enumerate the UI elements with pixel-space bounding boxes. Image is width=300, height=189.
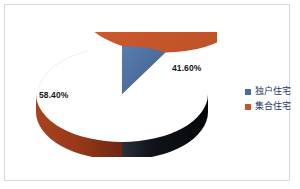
plot-area: 41.60% 58.40% 独户住宅 集合住宅 bbox=[5, 5, 289, 180]
pie-rim-highlight bbox=[39, 51, 87, 87]
legend-label-collective: 集合住宅 bbox=[255, 102, 291, 111]
chart-screenshot: 41.60% 58.40% 独户住宅 集合住宅 bbox=[0, 0, 300, 189]
pie-label-collective: 58.40% bbox=[39, 90, 68, 100]
pie-side-wall-orange bbox=[36, 94, 122, 157]
pie-side-wall-dark bbox=[122, 94, 208, 157]
legend-label-detached: 独户住宅 bbox=[255, 87, 291, 96]
legend-swatch-blue-icon bbox=[245, 89, 251, 95]
legend-item-collective[interactable]: 集合住宅 bbox=[245, 100, 300, 113]
legend-swatch-orange-icon bbox=[245, 104, 251, 110]
legend-item-detached[interactable]: 独户住宅 bbox=[245, 85, 300, 98]
chart-frame: 41.60% 58.40% 独户住宅 集合住宅 bbox=[4, 4, 290, 181]
pie-slice-blue bbox=[122, 46, 165, 94]
pie-label-detached: 41.60% bbox=[172, 63, 201, 73]
chart-legend: 独户住宅 集合住宅 bbox=[245, 85, 300, 115]
